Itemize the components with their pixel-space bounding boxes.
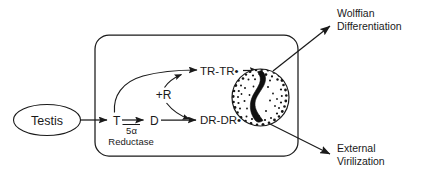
receptor-label: +R (156, 88, 172, 102)
testis-node: Testis (14, 105, 81, 136)
reductase-name-label: Reductase (108, 136, 153, 147)
wolffian-label-line2: Differentiation (337, 20, 402, 32)
nucleus-group (232, 68, 289, 126)
receptor-to-drdr-curve (167, 103, 190, 119)
outcome-external-virilization: External Virilization (337, 142, 385, 167)
dr-dr-complex-label: DR-DR• (200, 114, 241, 126)
testosterone-label: T (113, 114, 121, 128)
reductase-symbol-label: 5α (126, 125, 137, 136)
wolffian-arrow (273, 26, 330, 71)
wolffian-label-line1: Wolffian (337, 7, 375, 19)
receptor-to-trtr-curve (165, 75, 182, 88)
androgen-pathway-figure: Testis T 5α Reductase D +R TR-TR• DR-DR• (0, 0, 421, 180)
diagram-canvas: Testis T 5α Reductase D +R TR-TR• DR-DR• (0, 0, 421, 180)
dihydrotestosterone-label: D (150, 114, 159, 128)
external-label-line2: Virilization (337, 155, 385, 167)
testis-label: Testis (31, 114, 63, 128)
external-label-line1: External (337, 142, 376, 154)
outcome-wolffian: Wolffian Differentiation (337, 7, 402, 32)
tr-tr-complex-label: TR-TR• (200, 65, 239, 77)
external-virilization-arrow (270, 124, 330, 154)
